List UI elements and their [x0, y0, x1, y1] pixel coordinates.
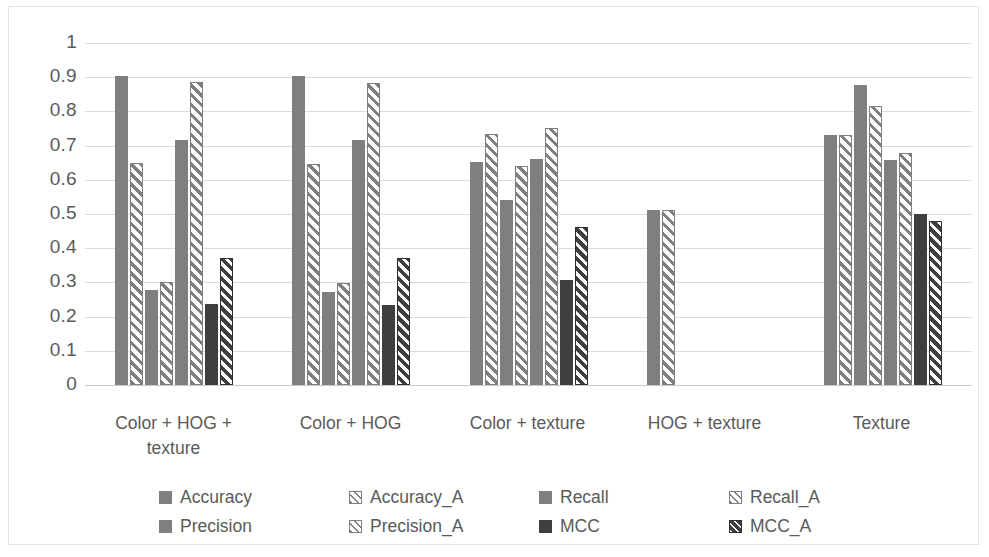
bar: [470, 162, 483, 385]
x-axis-category-label: Color + HOG: [262, 411, 439, 473]
bar: [190, 82, 203, 385]
bar: [824, 135, 837, 385]
y-axis: 10.90.80.70.60.50.40.30.20.10: [21, 7, 77, 407]
bar: [500, 200, 513, 385]
legend-item: Accuracy_A: [349, 487, 539, 508]
bar-groups: [85, 7, 972, 385]
legend-swatch-icon: [729, 520, 742, 533]
legend-label: Precision: [180, 516, 252, 537]
bar: [530, 159, 543, 385]
x-axis-category-label: HOG + texture: [616, 411, 793, 473]
legend-swatch-icon: [349, 491, 362, 504]
bar: [899, 153, 912, 385]
bar: [854, 85, 867, 385]
bar: [322, 292, 335, 385]
bar: [337, 283, 350, 385]
legend-swatch-icon: [539, 491, 552, 504]
bar: [205, 304, 218, 385]
chart-legend: AccuracyAccuracy_ARecallRecall_APrecisio…: [159, 483, 919, 541]
y-axis-tick-label: 0.2: [25, 305, 77, 327]
legend-swatch-icon: [539, 520, 552, 533]
bar: [914, 214, 927, 385]
bar-group: [795, 7, 972, 385]
legend-label: Accuracy_A: [370, 487, 463, 508]
bar-group: [440, 7, 617, 385]
x-axis-line: [85, 385, 972, 386]
bar: [884, 160, 897, 385]
y-axis-tick-label: 0.1: [25, 339, 77, 361]
bar: [145, 290, 158, 385]
y-axis-tick-label: 0.9: [25, 65, 77, 87]
y-axis-tick-label: 0.6: [25, 168, 77, 190]
legend-item: Accuracy: [159, 487, 349, 508]
y-axis-tick-label: 0.5: [25, 202, 77, 224]
bar: [515, 166, 528, 385]
legend-item: Precision_A: [349, 516, 539, 537]
bar: [839, 135, 852, 385]
legend-label: Recall_A: [750, 487, 820, 508]
x-axis-category-label: Texture: [793, 411, 970, 473]
x-axis-category-labels: Color + HOG +textureColor + HOGColor + t…: [85, 411, 970, 473]
plot-area: 10.90.80.70.60.50.40.30.20.10: [9, 7, 980, 407]
y-axis-tick-label: 0.8: [25, 99, 77, 121]
bar: [869, 106, 882, 385]
legend-item: MCC: [539, 516, 729, 537]
bar: [382, 305, 395, 385]
bar: [560, 280, 573, 385]
bar: [397, 258, 410, 385]
bar: [647, 210, 660, 385]
legend-label: Recall: [560, 487, 609, 508]
bar: [307, 164, 320, 385]
bar: [367, 83, 380, 385]
legend-label: Precision_A: [370, 516, 463, 537]
bar: [160, 282, 173, 385]
bar: [575, 227, 588, 385]
bar: [929, 221, 942, 385]
bar: [175, 140, 188, 385]
legend-label: MCC: [560, 516, 600, 537]
bar-group: [617, 7, 794, 385]
bar: [545, 128, 558, 385]
y-axis-tick-label: 0.7: [25, 134, 77, 156]
legend-label: Accuracy: [180, 487, 252, 508]
y-axis-tick-label: 0: [25, 373, 77, 395]
legend-swatch-icon: [159, 520, 172, 533]
x-axis-category-label: Color + texture: [439, 411, 616, 473]
legend-item: Recall: [539, 487, 729, 508]
bar: [485, 134, 498, 385]
legend-item: MCC_A: [729, 516, 919, 537]
legend-swatch-icon: [729, 491, 742, 504]
legend-label: MCC_A: [750, 516, 811, 537]
bar-group: [262, 7, 439, 385]
bar: [115, 76, 128, 386]
legend-item: Recall_A: [729, 487, 919, 508]
bar: [662, 210, 675, 385]
bar: [130, 163, 143, 385]
legend-item: Precision: [159, 516, 349, 537]
legend-swatch-icon: [349, 520, 362, 533]
bar: [352, 140, 365, 385]
y-axis-tick-label: 0.4: [25, 236, 77, 258]
x-axis-category-label: Color + HOG +texture: [85, 411, 262, 473]
legend-swatch-icon: [159, 491, 172, 504]
bar: [292, 76, 305, 386]
y-axis-tick-label: 0.3: [25, 270, 77, 292]
y-axis-tick-label: 1: [25, 31, 77, 53]
bar: [220, 258, 233, 385]
bar-group: [85, 7, 262, 385]
chart-container: 10.90.80.70.60.50.40.30.20.10 Color + HO…: [8, 6, 979, 545]
